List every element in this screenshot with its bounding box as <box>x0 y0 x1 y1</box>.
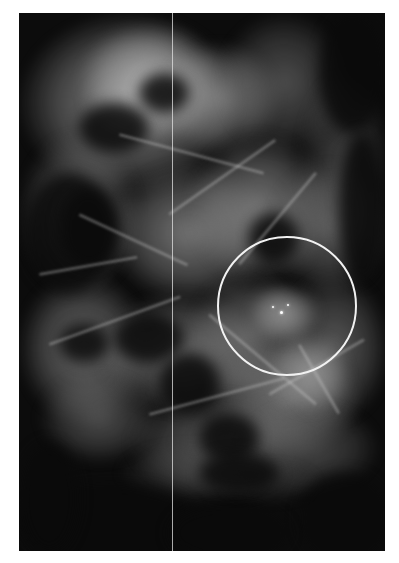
region-of-interest-circle <box>217 236 357 376</box>
fat-lobule <box>79 103 149 153</box>
fat-lobule <box>114 313 184 363</box>
fat-lobule <box>169 503 289 551</box>
fat-lobule <box>139 73 189 113</box>
fat-lobule <box>299 473 385 551</box>
fat-lobule <box>19 443 79 551</box>
fat-lobule <box>319 13 385 133</box>
fat-lobule <box>199 453 279 493</box>
vertical-artifact-line <box>172 13 173 551</box>
fat-lobule <box>339 133 385 283</box>
